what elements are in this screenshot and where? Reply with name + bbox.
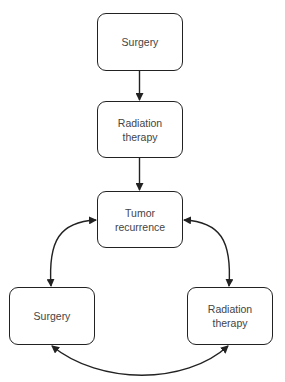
edge-tumor-radiation: [184, 220, 229, 286]
node-surgery-bottom: Surgery: [9, 287, 95, 345]
node-label: Tumor recurrence: [105, 206, 175, 234]
node-tumor-recurrence: Tumor recurrence: [97, 191, 183, 248]
node-label: Surgery: [34, 309, 71, 323]
node-label: Radiation therapy: [200, 302, 260, 330]
node-label: Radiation therapy: [110, 116, 170, 144]
edge-tumor-surgery: [51, 220, 96, 286]
node-radiation-therapy-bottom: Radiation therapy: [187, 287, 273, 345]
node-surgery-top: Surgery: [97, 13, 183, 71]
edge-surgery-radiation: [52, 346, 228, 375]
node-radiation-therapy-mid: Radiation therapy: [97, 101, 183, 158]
node-label: Surgery: [122, 35, 159, 49]
